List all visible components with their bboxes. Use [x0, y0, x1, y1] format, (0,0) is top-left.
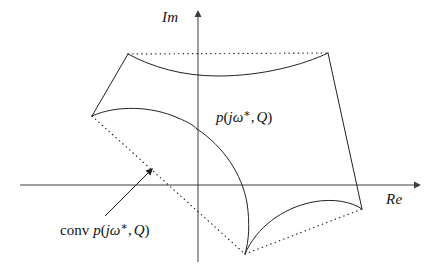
value-set-omega: ω — [233, 109, 244, 125]
curve-top-concave — [128, 53, 328, 76]
real-axis-arrowhead — [414, 182, 421, 189]
curve-interior-bulge — [197, 129, 249, 254]
real-axis-label: Re — [386, 192, 402, 207]
conv-pointer-shaft — [105, 173, 149, 217]
imaginary-axis-arrowhead — [195, 10, 202, 17]
convex-hull-star: ∗ — [120, 220, 127, 232]
hull-edge-bottom-right — [245, 209, 362, 254]
convex-hull-p: p — [93, 222, 101, 238]
convex-hull-close-paren: ) — [145, 222, 150, 238]
value-set-Q: Q — [257, 109, 268, 125]
value-set-close-paren: ) — [267, 109, 272, 125]
convex-hull-label: convp(jω∗,Q) — [60, 221, 150, 238]
conv-pointer-group — [105, 168, 153, 216]
value-set-comma: , — [251, 109, 255, 125]
figure-canvas: Im Re p(jω∗,Q) convp(jω∗,Q) — [0, 0, 431, 274]
curve-left-concave — [92, 108, 197, 129]
convex-hull-Q: Q — [134, 222, 145, 238]
edge-upper-left-straight — [92, 54, 128, 116]
convex-hull-conv: conv — [60, 222, 89, 238]
edge-right-straight — [328, 53, 362, 209]
value-set-p: p — [216, 109, 224, 125]
value-set-star: ∗ — [243, 107, 250, 119]
imaginary-axis-label: Im — [162, 10, 178, 25]
curve-bottom-concave — [245, 200, 362, 254]
convex-hull-omega: ω — [110, 222, 121, 238]
value-set-label: p(jω∗,Q) — [216, 108, 272, 125]
hull-edge-top — [128, 53, 328, 54]
convex-hull-comma: , — [128, 222, 132, 238]
